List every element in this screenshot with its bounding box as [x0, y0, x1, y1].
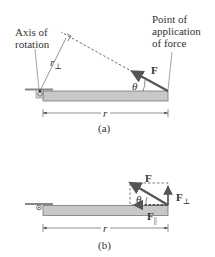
axis-of-rotation-label-line2: rotation — [15, 38, 49, 50]
r-perp-label: r⊥ — [50, 56, 62, 73]
point-of-application-label-line1: Point of — [152, 13, 187, 25]
theta-label: θ — [136, 193, 141, 205]
theta-label: θ — [132, 80, 137, 92]
f-parallel-label: F|| — [147, 210, 157, 227]
caption-b: (b) — [98, 239, 111, 251]
right-angle-mark — [67, 34, 71, 41]
axis-of-rotation-label-line1: Axis of — [15, 26, 48, 38]
point-of-application-label-line3: of force — [152, 37, 187, 49]
force-arrow — [136, 74, 168, 92]
r-label: r — [103, 107, 107, 119]
axis-leader — [35, 49, 39, 90]
hinge-plate — [25, 203, 53, 205]
force-label: F — [145, 172, 152, 184]
point-of-application-label-line2: application — [152, 25, 201, 37]
line-of-action — [61, 32, 133, 72]
f-perp-label: F⊥ — [176, 191, 190, 208]
force-label: F — [151, 64, 158, 76]
caption-a: (a) — [98, 122, 110, 134]
r-label: r — [103, 222, 107, 234]
theta-arc — [146, 197, 147, 205]
lever-bar — [43, 91, 168, 101]
point-leader — [168, 52, 172, 90]
theta-arc — [143, 80, 145, 91]
